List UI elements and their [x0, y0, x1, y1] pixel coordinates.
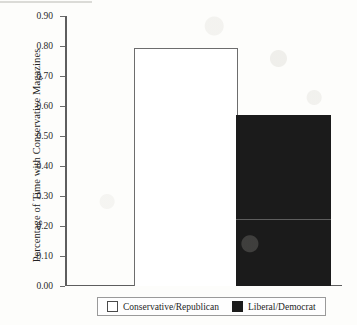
y-axis-tick-label: 0.60 [36, 101, 53, 111]
y-axis-tick-label: 0.00 [36, 281, 53, 291]
y-axis-tick: 0.00 [60, 286, 65, 287]
y-axis-tick-label: 0.40 [36, 161, 53, 171]
y-axis-tick: 0.20 [60, 226, 65, 227]
bar-2 [236, 115, 331, 286]
y-axis-tick: 0.80 [60, 46, 65, 47]
legend-entry-1: Conservative/Republican [107, 301, 219, 312]
legend-entry-2: Liberal/Democrat [232, 301, 316, 312]
legend-swatch-filled [232, 301, 243, 312]
plot-area: 0.900.800.700.600.500.400.300.200.100.00 [65, 16, 342, 286]
y-axis-tick-label: 0.80 [36, 41, 53, 51]
legend-label: Liberal/Democrat [248, 302, 316, 312]
bar-chart-figure: Percentage of Time with Conservative Mag… [0, 0, 357, 325]
scan-artifact-bar-line [236, 219, 331, 221]
y-axis-tick: 0.40 [60, 166, 65, 167]
y-axis-tick: 0.30 [60, 196, 65, 197]
y-axis-tick-label: 0.30 [36, 191, 53, 201]
scan-artifact-top-line [0, 1, 92, 3]
y-axis-tick-label: 0.90 [36, 11, 53, 21]
y-axis-tick: 0.70 [60, 76, 65, 77]
y-axis-title: Percentage of Time with Conservative Mag… [31, 26, 42, 286]
y-axis-tick-label: 0.20 [36, 221, 53, 231]
y-axis-tick: 0.90 [60, 16, 65, 17]
y-axis-line [65, 16, 67, 286]
y-axis-tick: 0.10 [60, 256, 65, 257]
chart-legend: Conservative/RepublicanLiberal/Democrat [97, 297, 326, 316]
legend-swatch-open [107, 301, 118, 312]
bar-1 [134, 48, 238, 286]
y-axis-tick: 0.60 [60, 106, 65, 107]
legend-label: Conservative/Republican [123, 302, 219, 312]
y-axis-tick: 0.50 [60, 136, 65, 137]
y-axis-tick-label: 0.50 [36, 131, 53, 141]
y-axis-tick-label: 0.70 [36, 71, 53, 81]
y-axis-tick-label: 0.10 [36, 251, 53, 261]
